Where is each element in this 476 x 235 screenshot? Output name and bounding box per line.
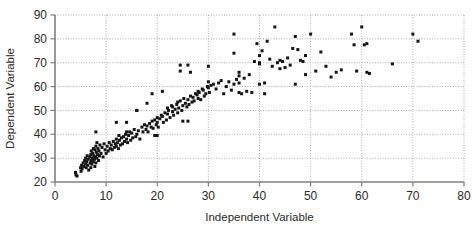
data-point: [416, 40, 419, 43]
data-point: [104, 148, 107, 151]
data-point: [126, 141, 129, 144]
data-point: [125, 121, 128, 124]
y-tick-label: 40: [34, 127, 48, 141]
data-point: [135, 109, 138, 112]
data-point: [174, 108, 177, 111]
data-point: [97, 159, 100, 162]
data-point: [238, 74, 241, 77]
data-point: [161, 115, 164, 118]
data-point: [125, 130, 128, 133]
data-point: [180, 109, 183, 112]
data-point: [263, 81, 266, 84]
data-point: [253, 60, 256, 63]
data-point: [93, 165, 96, 168]
data-point: [209, 84, 212, 87]
data-point: [215, 87, 218, 90]
data-point: [186, 120, 189, 123]
data-point: [179, 64, 182, 67]
data-point: [189, 95, 192, 98]
y-tick-label: 90: [34, 8, 48, 22]
data-point: [86, 164, 89, 167]
data-point: [101, 146, 104, 149]
data-point: [156, 121, 159, 124]
data-point: [102, 155, 105, 158]
data-point: [106, 145, 109, 148]
data-point: [271, 65, 274, 68]
data-point: [350, 33, 353, 36]
data-point: [131, 136, 134, 139]
data-point: [94, 161, 97, 164]
y-tick-label: 20: [34, 175, 48, 189]
data-point: [151, 92, 154, 95]
data-point: [125, 138, 128, 141]
data-point: [258, 83, 261, 86]
data-point: [286, 56, 289, 59]
data-point: [115, 138, 118, 141]
data-point: [147, 130, 150, 133]
data-point: [261, 49, 264, 52]
data-point: [263, 92, 266, 95]
data-point: [153, 134, 156, 137]
data-point: [238, 71, 241, 74]
data-point: [278, 67, 281, 70]
data-point: [238, 91, 241, 94]
data-point: [324, 65, 327, 68]
data-point: [314, 70, 317, 73]
data-point: [353, 43, 356, 46]
data-point: [291, 47, 294, 50]
data-point: [103, 142, 106, 145]
data-point: [75, 175, 78, 178]
data-point: [89, 166, 92, 169]
data-point: [296, 48, 299, 51]
data-point: [193, 99, 196, 102]
data-point: [301, 60, 304, 63]
data-point: [163, 111, 166, 114]
data-point: [165, 118, 168, 121]
data-point: [179, 70, 182, 73]
data-point: [141, 130, 144, 133]
data-point: [167, 109, 170, 112]
data-point: [235, 78, 238, 81]
x-tick-label: 10: [99, 189, 113, 203]
data-point: [304, 73, 307, 76]
data-point: [202, 89, 205, 92]
data-point: [137, 129, 140, 132]
data-point: [335, 71, 338, 74]
data-point: [304, 54, 307, 57]
data-point: [133, 128, 136, 131]
data-point: [411, 33, 414, 36]
data-point: [340, 68, 343, 71]
data-point: [117, 147, 120, 150]
data-point: [95, 141, 98, 144]
data-point: [284, 66, 287, 69]
data-point: [217, 81, 220, 84]
data-point: [143, 123, 146, 126]
data-point: [157, 126, 160, 129]
x-tick-label: 0: [52, 189, 59, 203]
data-point: [172, 114, 175, 117]
data-point: [276, 61, 279, 64]
x-tick-label: 50: [304, 189, 318, 203]
data-point: [176, 111, 179, 114]
data-point: [197, 97, 200, 100]
data-point: [212, 83, 215, 86]
data-point: [227, 80, 230, 83]
data-point: [161, 90, 164, 93]
data-point: [207, 80, 210, 83]
data-point: [184, 102, 187, 105]
data-point: [232, 83, 235, 86]
data-point: [240, 92, 243, 95]
x-axis-title: Independent Variable: [205, 211, 314, 223]
data-point: [294, 83, 297, 86]
data-point: [289, 64, 292, 67]
y-axis-title: Dependent Variable: [4, 48, 16, 149]
data-point: [138, 138, 141, 141]
data-point: [255, 42, 258, 45]
y-tick-label: 80: [34, 32, 48, 46]
data-point: [319, 50, 322, 53]
data-point: [330, 76, 333, 79]
data-point: [245, 90, 248, 93]
data-point: [162, 121, 165, 124]
data-point: [243, 77, 246, 80]
data-point: [299, 59, 302, 62]
